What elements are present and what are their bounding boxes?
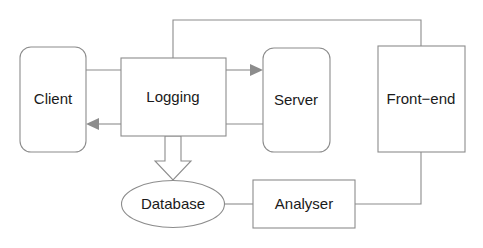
node-logging[interactable]: Logging — [121, 58, 226, 136]
client-label: Client — [34, 90, 73, 107]
node-analyser[interactable]: Analyser — [253, 180, 355, 228]
arrowhead-into-server — [250, 64, 263, 76]
database-label: Database — [141, 195, 205, 212]
node-server[interactable]: Server — [263, 48, 330, 152]
block-arrow-logging-to-database — [155, 136, 191, 180]
diagram-canvas: Client Logging Server Front−end Database… — [0, 0, 483, 248]
frontend-label: Front−end — [387, 90, 456, 107]
analyser-label: Analyser — [275, 195, 333, 212]
node-client[interactable]: Client — [20, 47, 86, 152]
node-database[interactable]: Database — [122, 181, 225, 228]
architecture-diagram: Client Logging Server Front−end Database… — [0, 0, 483, 248]
node-frontend[interactable]: Front−end — [378, 46, 465, 152]
edge-analyser-to-frontend — [355, 152, 421, 204]
logging-label: Logging — [146, 88, 199, 105]
arrowhead-into-client — [86, 118, 99, 130]
server-label: Server — [274, 91, 318, 108]
